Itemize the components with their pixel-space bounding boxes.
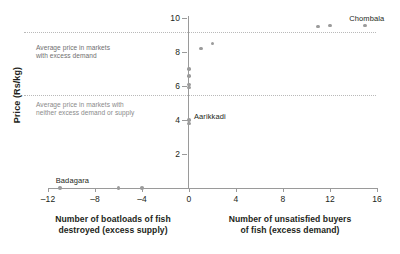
data-point — [363, 24, 367, 28]
reference-line-excess-demand — [24, 32, 376, 33]
data-point — [58, 186, 62, 190]
x-tick-label: 12 — [317, 194, 343, 204]
x-tick-mark — [377, 188, 378, 192]
x-tick-label: 8 — [270, 194, 296, 204]
scatter-chart-figure: –12–8–40481216 246810 BadagaraAarikkadiC… — [0, 0, 400, 254]
x-tick-mark — [330, 188, 331, 192]
y-tick-mark — [182, 18, 187, 19]
data-point — [187, 118, 191, 122]
x-axis-title-right: Number of unsatisfied buyers of fish (ex… — [200, 214, 380, 236]
x-tick-mark — [95, 188, 96, 192]
x-tick-mark — [189, 188, 190, 192]
x-tick-label: –4 — [129, 194, 155, 204]
data-point — [187, 83, 191, 87]
data-point-label: Chombala — [349, 14, 384, 23]
annotation-neither-excess: Average price in markets with neither ex… — [36, 101, 134, 118]
x-tick-mark — [48, 188, 49, 192]
data-point — [117, 186, 121, 190]
x-tick-mark — [236, 188, 237, 192]
y-axis — [188, 16, 189, 189]
annotation-excess-demand: Average price in markets with excess dem… — [36, 44, 110, 61]
data-point — [187, 74, 191, 78]
x-tick-label: 4 — [223, 194, 249, 204]
data-point — [187, 86, 191, 90]
data-point — [187, 67, 191, 71]
y-tick-mark — [182, 154, 187, 155]
data-point — [316, 25, 320, 29]
x-tick-label: 16 — [364, 194, 390, 204]
y-tick-label: 8 — [164, 47, 180, 57]
reference-line-neither — [24, 95, 376, 96]
x-tick-mark — [283, 188, 284, 192]
data-point — [140, 186, 144, 190]
data-point — [199, 47, 203, 51]
y-tick-mark — [182, 52, 187, 53]
data-point-label: Aarikkadi — [194, 112, 226, 121]
data-point — [211, 42, 215, 46]
data-point — [328, 24, 332, 28]
y-tick-label: 2 — [164, 149, 180, 159]
y-axis-title: Price (Rs/kg) — [12, 45, 22, 145]
y-tick-label: 4 — [164, 115, 180, 125]
x-axis — [48, 188, 377, 189]
data-point — [187, 122, 191, 126]
data-point-label: Badagara — [56, 176, 89, 185]
x-tick-label: 0 — [176, 194, 202, 204]
x-tick-label: –12 — [35, 194, 61, 204]
y-tick-label: 10 — [164, 13, 180, 23]
y-tick-label: 6 — [164, 81, 180, 91]
x-axis-title-left: Number of boatloads of fish destroyed (e… — [28, 214, 198, 236]
x-tick-label: –8 — [82, 194, 108, 204]
